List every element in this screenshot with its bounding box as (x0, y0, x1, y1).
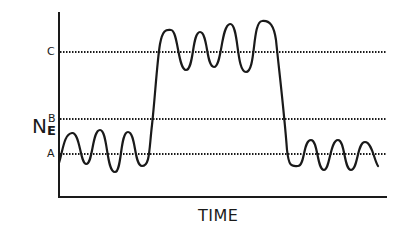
waveform-curve (59, 21, 378, 172)
waveform-diagram (0, 0, 405, 231)
y-axis-label-main: N (32, 114, 47, 138)
level-c-label: C (47, 46, 55, 57)
level-a-label: A (47, 148, 55, 159)
x-axis-label: TIME (198, 208, 238, 224)
y-axis-label: NE (32, 116, 56, 136)
y-axis-label-subscript: E (47, 123, 56, 138)
